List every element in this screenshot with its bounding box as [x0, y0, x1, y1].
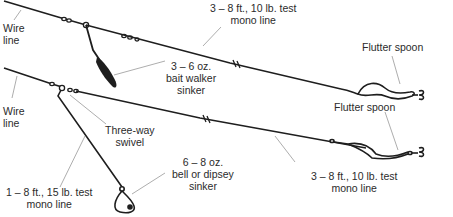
dropper-line-label: 1 – 8 ft., 15 lb. test mono line: [6, 186, 92, 210]
top-flutter-spoon-label: Flutter spoon: [362, 41, 423, 53]
dipsey-sinker-label: 6 – 8 oz. bell or dipsey sinker: [172, 156, 234, 192]
three-way-swivel-icon: [50, 82, 78, 92]
bait-walker-arm: [86, 25, 101, 62]
bottom-wire-line-label: Wire line: [3, 105, 25, 129]
three-way-swivel-label: Three-way swivel: [105, 124, 155, 148]
top-flutter-spoon-icon: [341, 83, 424, 99]
bottom-mono-line-label: 3 – 8 ft., 10 lb. test mono line: [311, 170, 397, 194]
top-wire-line-label: Wire line: [3, 22, 25, 46]
bottom-flutter-spoon-icon: [330, 140, 424, 159]
top-mono-line-label: 3 – 8 ft., 10 lb. test mono line: [210, 2, 296, 26]
bait-walker-sinker-icon: [96, 57, 116, 88]
bait-walker-sinker-label: 3 – 6 oz. bait walker sinker: [166, 60, 216, 96]
dipsey-sinker-icon: [115, 187, 134, 213]
bottom-flutter-spoon-label: Flutter spoon: [334, 101, 395, 113]
